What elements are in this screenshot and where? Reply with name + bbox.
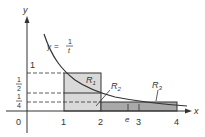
- y-axis-label: y: [22, 5, 28, 15]
- curve-label-num: 1: [68, 38, 72, 45]
- x-tick-label-3: 3: [136, 117, 141, 127]
- r3-leader: [156, 90, 158, 101]
- origin-label: 0: [16, 117, 21, 127]
- x-tick-label-4: 4: [174, 117, 179, 127]
- x-tick-label-2: 2: [98, 117, 103, 127]
- region-r3-label: R3: [152, 80, 163, 91]
- curve-label-den: t: [68, 47, 71, 54]
- curve-label-lhs: y: [46, 42, 52, 51]
- curve-label-eq: =: [54, 42, 59, 51]
- y-tick-label-half-den: 2: [17, 85, 21, 92]
- area-under-hyperbola-diagram: y x 0 1 2 e 3 4 1 1 2 1 4 y = 1 t R1 R2 …: [0, 0, 205, 137]
- y-tick-label-half-num: 1: [17, 76, 21, 83]
- y-axis-arrow-icon: [25, 16, 30, 23]
- region-r2-label: R2: [111, 81, 122, 92]
- y-tick-label-quarter-num: 1: [17, 93, 21, 100]
- region-r1-fill: [64, 73, 101, 111]
- y-tick-label-quarter-den: 4: [17, 102, 21, 109]
- x-tick-label-1: 1: [61, 117, 66, 127]
- x-axis-arrow-icon: [185, 109, 192, 114]
- y-tick-label-1: 1: [30, 60, 35, 70]
- diagram-canvas: y x 0 1 2 e 3 4 1 1 2 1 4 y = 1 t R1 R2 …: [0, 0, 205, 137]
- x-axis-label: x: [193, 106, 199, 116]
- x-tick-label-e: e: [125, 115, 130, 124]
